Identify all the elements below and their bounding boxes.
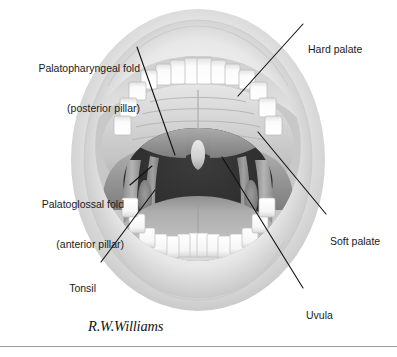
label-tonsil: Tonsil: [38, 256, 96, 322]
label-palatopharyngeal-fold-line1: Palatopharyngeal fold: [12, 62, 140, 75]
artist-signature: R.W.Williams: [88, 318, 163, 335]
label-palatopharyngeal-fold-line2: (posterior pillar): [12, 102, 140, 115]
illustration-page: Palatopharyngeal fold (posterior pillar)…: [0, 0, 397, 357]
bottom-divider: [0, 346, 397, 347]
label-palatoglossal-fold-line2: (anterior pillar): [8, 238, 124, 251]
label-uvula: Uvula: [306, 283, 366, 349]
label-soft-palate-line1: Soft palate: [330, 235, 396, 248]
label-uvula-line1: Uvula: [306, 309, 366, 322]
label-soft-palate: Soft palate: [330, 209, 396, 275]
label-hard-palate: Hard palate: [308, 17, 396, 83]
label-hard-palate-line1: Hard palate: [308, 43, 396, 56]
label-tonsil-line1: Tonsil: [38, 282, 96, 295]
label-palatoglossal-fold-line1: Palatoglossal fold: [8, 198, 124, 211]
label-palatopharyngeal-fold: Palatopharyngeal fold (posterior pillar): [12, 36, 140, 141]
